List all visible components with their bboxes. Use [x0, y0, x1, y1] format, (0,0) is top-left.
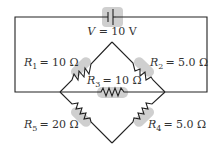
r2-label: R2= 5.0 Ω	[149, 56, 208, 71]
battery-label: V = 10 V	[87, 25, 138, 38]
r3-label: R3= 10 Ω	[86, 74, 142, 89]
r5-label: R5= 20 Ω	[23, 118, 79, 133]
circuit-diagram: V = 10 V R1= 10 Ω R2= 5.0 Ω R3= 10 Ω R5=…	[0, 0, 220, 154]
r1-label: R1= 10 Ω	[23, 56, 79, 71]
r3-highlight	[97, 87, 128, 98]
r4-label: R4= 5.0 Ω	[147, 118, 206, 133]
